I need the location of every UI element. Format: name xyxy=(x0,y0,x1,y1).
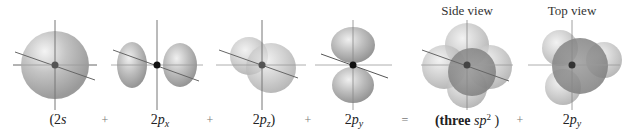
label-2px: 2px xyxy=(151,112,169,129)
label-2s: (2s xyxy=(49,112,66,128)
orbital-three-sp2-side-view xyxy=(421,20,513,110)
operator-plus: + xyxy=(207,113,214,128)
orbital-top-view xyxy=(528,20,622,110)
operator-plus: + xyxy=(305,113,312,128)
label-three-sp2: (three sp2 ) xyxy=(435,112,499,129)
side-view-label: Side view xyxy=(441,3,493,19)
operator-equals: = xyxy=(402,113,409,128)
top-view-label: Top view xyxy=(548,3,597,19)
operator-plus: + xyxy=(517,113,524,128)
label-2py: 2py xyxy=(345,112,363,129)
orbital-2pz xyxy=(216,20,306,110)
orbital-illustrations xyxy=(0,0,632,134)
orbital-2px xyxy=(111,20,203,110)
label-2py-result: 2py xyxy=(563,112,581,129)
hybridization-diagram: Side view Top view (2s + 2px + 2pz) + 2p… xyxy=(0,0,632,134)
orbital-2py xyxy=(315,20,392,110)
label-2pz: 2pz) xyxy=(253,112,276,129)
operator-plus: + xyxy=(102,113,109,128)
orbital-2s xyxy=(13,20,97,110)
